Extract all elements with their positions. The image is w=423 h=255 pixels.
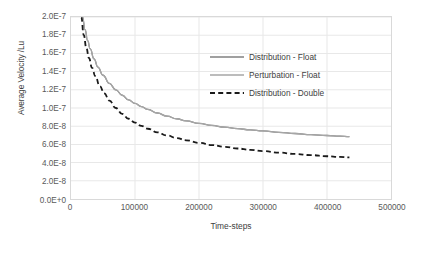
x-axis-tick-label: 500000: [378, 203, 405, 212]
legend-item[interactable]: Perturbation - Float: [210, 66, 360, 84]
y-axis-tick-label: 1.6E-7: [26, 48, 66, 57]
legend-item-label: Perturbation - Float: [249, 70, 320, 80]
legend-item-label: Distribution - Float: [249, 52, 316, 62]
x-axis-tick-label: 400000: [314, 203, 341, 212]
legend-line-swatch: [210, 88, 244, 98]
legend-item[interactable]: Distribution - Double: [210, 84, 360, 102]
legend-line-swatch: [210, 70, 244, 80]
legend-item-label: Distribution - Double: [249, 88, 324, 98]
y-axis-tick-label: 2.0E-8: [26, 177, 66, 186]
plot-svg: [71, 17, 391, 199]
plot-area: [70, 16, 392, 200]
y-axis-tick-label: 0.0E+0: [26, 196, 66, 205]
y-axis-tick-label: 1.4E-7: [26, 67, 66, 76]
y-axis-tick-label: 2.0E-7: [26, 12, 66, 21]
y-axis-tick-label: 1.8E-7: [26, 30, 66, 39]
legend-item[interactable]: Distribution - Float: [210, 48, 360, 66]
y-axis-tick-label: 1.0E-7: [26, 104, 66, 113]
chart-legend: Distribution - FloatPerturbation - Float…: [210, 48, 360, 102]
gridlines: [71, 17, 391, 199]
legend-line-swatch: [210, 52, 244, 62]
x-axis-title: Time-steps: [70, 221, 392, 231]
y-axis-tick-label: 4.0E-8: [26, 159, 66, 168]
x-axis-tick-label: 200000: [185, 203, 212, 212]
x-axis-tick-label: 0: [68, 203, 73, 212]
y-axis-tick-label: 8.0E-8: [26, 122, 66, 131]
x-axis-tick-label: 100000: [121, 203, 148, 212]
x-axis-tick-label: 300000: [250, 203, 277, 212]
y-axis-tick-label: 6.0E-8: [26, 140, 66, 149]
y-axis-tick-label: 1.2E-7: [26, 85, 66, 94]
y-axis-tick-labels: 0.0E+02.0E-84.0E-86.0E-88.0E-81.0E-71.2E…: [26, 16, 66, 200]
x-axis-tick-labels: 0100000200000300000400000500000: [70, 203, 392, 215]
chart-container: Average Velocity /Lu 0.0E+02.0E-84.0E-86…: [0, 0, 423, 255]
